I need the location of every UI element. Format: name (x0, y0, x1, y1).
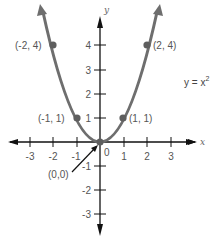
point-2-4 (143, 41, 150, 48)
y-tick-label: 2 (85, 89, 91, 100)
equation-label: y = x2 (184, 75, 209, 88)
x-axis-right-arrow-icon (186, 139, 197, 145)
y-tick-label: -1 (82, 161, 91, 172)
point-1-1 (119, 114, 126, 121)
point-label: (1, 1) (129, 113, 152, 124)
point-neg1-1 (73, 114, 80, 121)
x-tick-label: 1 (121, 151, 127, 162)
y-tick-label: 4 (85, 40, 91, 51)
point-origin (96, 138, 103, 145)
x-tick-label: 2 (144, 151, 150, 162)
parabola-chart: -3 -2 -1 1 2 3 -3 -2 -1 1 2 3 4 0 x y (-… (0, 0, 224, 245)
y-tick-label: -3 (82, 209, 91, 220)
point-neg2-4 (49, 41, 56, 48)
x-tick-label: -1 (72, 151, 81, 162)
point-label: (-2, 4) (15, 40, 42, 51)
origin-point-label: (0,0) (48, 169, 69, 180)
curve-left-arrow-icon (37, 4, 47, 16)
y-axis-up-arrow-icon (97, 16, 103, 28)
curve-right-arrow-icon (153, 4, 163, 16)
y-tick-label: 1 (85, 113, 91, 124)
x-tick-label: 3 (168, 151, 174, 162)
x-tick-label: -2 (49, 151, 58, 162)
y-tick-label: 3 (85, 65, 91, 76)
y-axis (97, 16, 103, 236)
x-tick-label: -3 (26, 151, 35, 162)
y-axis-label: y (103, 5, 110, 15)
origin-label: 0 (104, 147, 110, 158)
x-axis-left-arrow-icon (8, 139, 18, 145)
y-tick-label: -2 (82, 185, 91, 196)
y-axis-down-arrow-icon (97, 224, 103, 236)
point-label: (-1, 1) (38, 113, 65, 124)
x-axis-label: x (200, 137, 205, 147)
point-label: (2, 4) (153, 40, 176, 51)
